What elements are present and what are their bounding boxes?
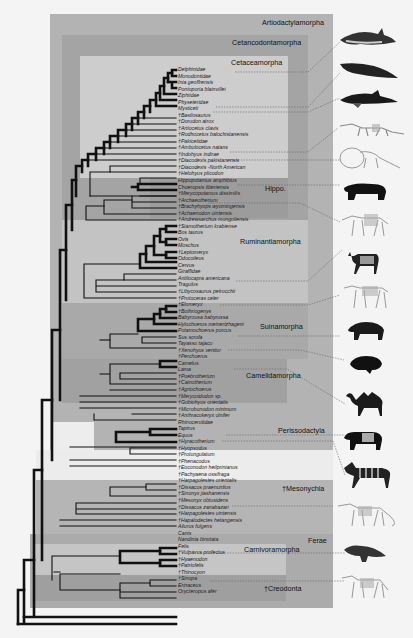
dolphin-icon (338, 26, 398, 48)
ambulocetus-skeleton-icon (336, 118, 406, 140)
taxon-label: †Brachyhyops wyomingensis (178, 204, 245, 209)
taxon-label: †Harpagolestes uintensis (178, 511, 236, 516)
taxon-label: Tapirus (178, 426, 195, 431)
protoceras-skeleton-icon (342, 282, 390, 310)
taxon-label: †Patriofelis (178, 563, 204, 568)
sperm-whale-icon (338, 60, 400, 82)
taxon-label: †Libycosaurus petrocchii (178, 289, 235, 294)
taxon-label: Odocoileus (178, 256, 204, 261)
taxon-label: Delphinidae (178, 67, 205, 72)
taxon-label: †Diacodexis pakistanensis (178, 158, 239, 163)
taxon-label: Potamochoerus porcus (178, 328, 231, 333)
taxon-label: Tayassu tajacu (178, 341, 212, 346)
mesonyx-skeleton-icon (336, 500, 400, 530)
camel-icon (344, 386, 386, 418)
zebra-icon (342, 460, 394, 490)
taxon-label: †Dorudon atrox (178, 119, 214, 124)
taxon-label: †Elomeryx (178, 302, 203, 307)
archaeotherium-skeleton-icon (340, 210, 390, 240)
tapir-icon (342, 428, 384, 452)
taxon-label: †Rodhocetus balochistanensis (178, 132, 248, 137)
taxon-label: †Vulpavus profectus (178, 550, 225, 555)
taxon-label: Orycteropus afer (178, 589, 217, 594)
taxon-label: †Protungulatum (178, 452, 215, 457)
civet-icon (342, 542, 388, 564)
indohyus-skeleton-icon (336, 144, 402, 172)
hippopotamus-icon (342, 180, 388, 202)
taxon-label: †Merycopotamus dissimilis (178, 191, 240, 196)
taxon-label: †Perchoerus (178, 354, 207, 359)
taxon-label: †Anthracokeryx ulnifer (178, 413, 230, 418)
taxon-label: †Ambulocetus natans (178, 145, 228, 150)
pig-icon (346, 318, 386, 342)
taxon-label: Lama (178, 367, 191, 372)
hyaenodon-skeleton-icon (340, 572, 392, 602)
taxon-label: Ziphiidae (178, 93, 199, 98)
taxon-label: Bos taurus (178, 230, 203, 235)
taxon-label: Hippopotamus amphibius (178, 178, 237, 183)
humpback-whale-icon (338, 88, 400, 110)
taxon-label: Ailurus fulgens (178, 524, 212, 529)
taxon-label: †Gobiohyus orientalis (178, 400, 228, 405)
taxon-label: †Agriochoerus (178, 387, 211, 392)
taxon-label: Nandinia binotata (178, 537, 218, 542)
taxon-label: Mysticeti (178, 106, 198, 111)
peccary-icon (348, 352, 384, 374)
taxon-label: †Harpagolestes orientalis (178, 478, 237, 483)
taxon-label: †Andrewsarchus mongoliensis (178, 217, 248, 222)
taxon-label: Inia geoffrensis (178, 80, 213, 85)
taxon-label: †Mesonyx obtusidens (178, 498, 228, 503)
taxon-label: †Hyracotherium (178, 439, 215, 444)
pronghorn-icon (344, 244, 382, 278)
taxon-label: †Eoconodon heilprinianus (178, 465, 238, 470)
taxon-label: Babyrousa babyrussa (178, 315, 228, 320)
taxon-label: Moschus (178, 243, 199, 248)
taxon-label: †Sinopa (178, 576, 197, 581)
